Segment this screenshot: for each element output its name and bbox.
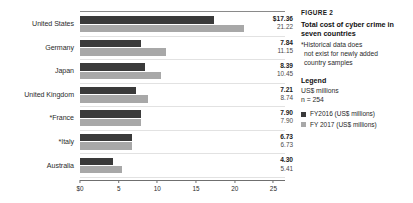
x-axis-line (80, 180, 285, 181)
legend-item: FY 2017 (US$ millions) (301, 121, 407, 129)
value-label-fy2016: 7.84 (249, 39, 293, 47)
legend-sample-size: n = 254 (301, 95, 407, 104)
chart-row: *Italy6.736.73 (0, 131, 297, 155)
x-axis: $0510152025 (80, 180, 285, 198)
figure-number: FIGURE 2 (301, 9, 407, 16)
footnote-line3: country samples (301, 59, 407, 68)
plot-top-rule (80, 11, 285, 12)
legend-heading: Legend (301, 77, 407, 86)
footnote-line1: *Historical data does (301, 41, 362, 48)
value-labels: 4.305.41 (249, 156, 293, 172)
tick-mark (157, 180, 158, 183)
tick-mark (196, 180, 197, 183)
bar-fy2016 (80, 158, 113, 165)
category-label: United States (0, 21, 74, 28)
category-label: Australia (0, 163, 74, 170)
tick-label: 15 (192, 185, 199, 193)
legend-item: FY2016 (US$ millions) (301, 110, 407, 118)
chart-rows: United States$17.3621.22Germany7.8411.15… (0, 13, 297, 178)
x-tick: $0 (76, 180, 83, 193)
tick-mark (273, 180, 274, 183)
legend: Legend US$ millions n = 254 FY2016 (US$ … (301, 77, 407, 129)
legend-label: FY2016 (US$ millions) (310, 110, 375, 118)
chart-row: United Kingdom7.218.74 (0, 84, 297, 108)
bar-fy2016 (80, 63, 145, 70)
value-labels: 6.736.73 (249, 133, 293, 149)
value-labels: 8.3910.45 (249, 62, 293, 78)
tick-mark (234, 180, 235, 183)
bar-fy2016 (80, 40, 141, 47)
value-labels: 7.907.90 (249, 109, 293, 125)
tick-label: 20 (231, 185, 238, 193)
legend-swatch-icon (301, 122, 306, 127)
bar-fy2017 (80, 72, 161, 79)
legend-label: FY 2017 (US$ millions) (310, 121, 377, 129)
caption-panel: FIGURE 2 Total cost of cyber crime in se… (297, 0, 413, 203)
value-labels: 7.218.74 (249, 86, 293, 102)
bar-fy2017 (80, 142, 132, 149)
figure-footnote: *Historical data does not exist for newl… (301, 41, 407, 68)
figure-title-line1: Total cost of cyber crime (301, 20, 386, 29)
x-tick: 25 (270, 180, 277, 193)
value-label-fy2016: 7.21 (249, 86, 293, 94)
chart-row: *France7.907.90 (0, 107, 297, 131)
bar-fy2017 (80, 48, 166, 55)
chart-row: Australia4.305.41 (0, 154, 297, 178)
value-label-fy2017: 21.22 (249, 23, 293, 31)
tick-label: 25 (270, 185, 277, 193)
category-label: Japan (0, 68, 74, 75)
category-label: *Italy (0, 139, 74, 146)
chart-row: United States$17.3621.22 (0, 13, 297, 37)
value-label-fy2017: 11.15 (249, 47, 293, 55)
value-labels: 7.8411.15 (249, 39, 293, 55)
category-label: *France (0, 115, 74, 122)
x-tick: 10 (154, 180, 161, 193)
bar-fy2016 (80, 134, 132, 141)
footnote-line2: not exist for newly added (301, 50, 407, 59)
bar-fy2016 (80, 16, 214, 23)
value-label-fy2016: 4.30 (249, 156, 293, 164)
value-label-fy2017: 6.73 (249, 141, 293, 149)
bar-chart: United States$17.3621.22Germany7.8411.15… (0, 0, 297, 203)
chart-row: Japan8.3910.45 (0, 60, 297, 84)
bar-fy2017 (80, 95, 148, 102)
bar-fy2017 (80, 119, 141, 126)
value-label-fy2017: 5.41 (249, 165, 293, 173)
value-label-fy2016: 7.90 (249, 109, 293, 117)
x-tick: 5 (117, 180, 121, 193)
tick-mark (79, 180, 80, 183)
value-labels: $17.3621.22 (249, 15, 293, 31)
bar-fy2016 (80, 87, 136, 94)
tick-label: 10 (154, 185, 161, 193)
category-label: United Kingdom (0, 92, 74, 99)
tick-label: $0 (76, 185, 83, 193)
tick-label: 5 (117, 185, 121, 193)
value-label-fy2017: 7.90 (249, 117, 293, 125)
bar-fy2016 (80, 110, 141, 117)
legend-swatch-icon (301, 112, 306, 117)
tick-mark (118, 180, 119, 183)
figure-title: Total cost of cyber crime in seven count… (301, 20, 407, 39)
value-label-fy2016: 6.73 (249, 133, 293, 141)
chart-row: Germany7.8411.15 (0, 37, 297, 61)
value-label-fy2017: 8.74 (249, 94, 293, 102)
value-label-fy2017: 10.45 (249, 70, 293, 78)
x-tick: 20 (231, 180, 238, 193)
bar-fy2017 (80, 25, 244, 32)
category-label: Germany (0, 45, 74, 52)
value-label-fy2016: $17.36 (249, 15, 293, 23)
figure-container: United States$17.3621.22Germany7.8411.15… (0, 0, 413, 203)
x-tick: 15 (192, 180, 199, 193)
legend-items: FY2016 (US$ millions)FY 2017 (US$ millio… (301, 110, 407, 129)
bar-fy2017 (80, 166, 122, 173)
gridline (80, 177, 285, 178)
value-label-fy2016: 8.39 (249, 62, 293, 70)
legend-units: US$ millions (301, 86, 407, 95)
